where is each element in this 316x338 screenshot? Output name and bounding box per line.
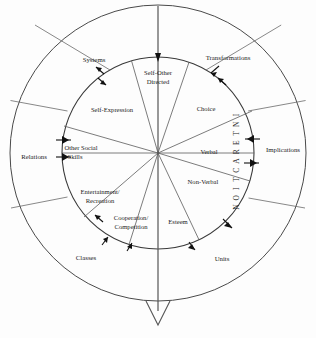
- inner-label-cooperation-competition: Cooperation/ Competition: [114, 214, 149, 230]
- axis-label-char-7: T: [232, 177, 241, 182]
- axis-label-char-5: A: [232, 158, 241, 164]
- axis-label-char-9: O: [232, 195, 241, 201]
- marker-pair-ne: [211, 66, 226, 85]
- inner-label-esteem: Esteem: [168, 218, 188, 225]
- outer-divider-w-lower: [11, 197, 68, 208]
- inner-label-other-social-line2: Skills: [67, 153, 82, 160]
- inner-label-other-social-line1: Other Social: [64, 144, 97, 151]
- inner-label-entertainment-line1: Entertainment/: [80, 188, 119, 195]
- outer-label-implications: Implications: [266, 146, 300, 153]
- outer-divider-w-upper: [11, 101, 68, 112]
- spoke-7: [129, 153, 158, 245]
- outer-label-units: Units: [215, 255, 230, 262]
- outer-divider-e-upper: [248, 101, 306, 112]
- outer-divider-e-lower: [249, 198, 306, 208]
- axis-label-char-8: I: [232, 187, 241, 190]
- axis-label-char-2: T: [232, 131, 241, 136]
- spoke-8: [84, 153, 158, 217]
- inner-label-cooperation-line2: Competition: [115, 223, 149, 230]
- inner-label-entertainment-recreation: Entertainment/ Recreation: [80, 188, 119, 204]
- inner-label-verbal: Verbal: [200, 148, 217, 155]
- outer-label-relations: Relations: [21, 153, 47, 160]
- axis-label-char-3: E: [232, 140, 241, 145]
- interaction-wheel-diagram: Systems Transformations Implications Uni…: [0, 0, 316, 338]
- marker-pair-e: [244, 135, 260, 167]
- outer-label-systems: Systems: [83, 56, 106, 63]
- marker-pair-se: [223, 219, 232, 228]
- outer-label-classes: Classes: [76, 254, 97, 261]
- axis-label-char-4: R: [232, 149, 241, 154]
- marker-ne-out: [211, 66, 219, 73]
- spoke-6: [158, 153, 199, 240]
- axis-label-char-6: C: [232, 168, 241, 173]
- vertical-axis: [146, 6, 170, 325]
- inner-label-other-social-skills: Other Social Skills: [64, 144, 97, 160]
- axis-label-char-10: N: [232, 204, 241, 210]
- axis-label-char-0: I: [232, 113, 241, 116]
- inner-label-self-other-directed-line2: Directed: [147, 78, 170, 85]
- inner-label-non-verbal: Non-Verbal: [188, 178, 219, 185]
- inner-label-entertainment-line2: Recreation: [86, 197, 115, 204]
- axis-label-interaction: INTERACTION: [232, 113, 241, 209]
- marker-se-out-head: [224, 222, 232, 228]
- diagram-root: Systems Transformations Implications Uni…: [0, 0, 316, 338]
- inner-label-self-other-directed-line1: Self-Other: [144, 69, 173, 76]
- marker-e-upper-head: [247, 135, 254, 143]
- inner-label-choice: Choice: [197, 105, 216, 112]
- spoke-2: [158, 62, 189, 153]
- axis-label-char-1: N: [232, 121, 241, 127]
- inner-label-cooperation-line1: Cooperation/: [114, 214, 149, 221]
- marker-s-right-head: [188, 244, 195, 250]
- inner-label-self-expression: Self-Expression: [91, 106, 134, 113]
- outer-label-transformations: Transformations: [206, 54, 251, 61]
